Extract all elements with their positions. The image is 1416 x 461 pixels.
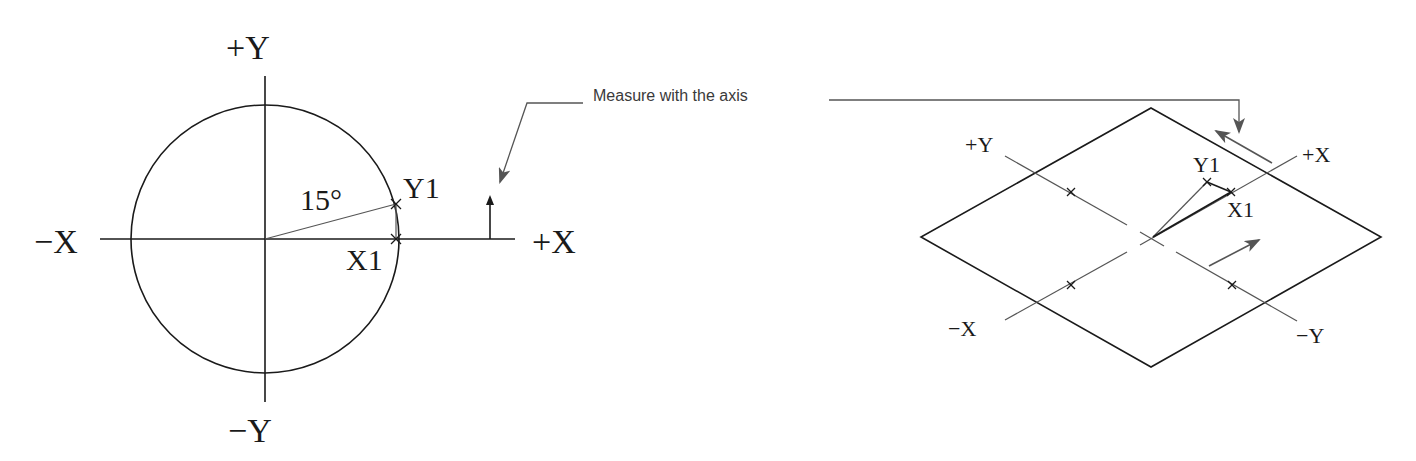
iso-label-x1: X1	[1227, 197, 1254, 222]
circle-diagram: +Y −Y −X +X 15° Y1 X1	[34, 29, 576, 449]
diagram-canvas: +Y −Y −X +X 15° Y1 X1 Measure with the a…	[0, 0, 1416, 461]
isometric-diagram: +Y +X −X −Y Y1 X1	[921, 108, 1381, 367]
label-angle: 15°	[300, 183, 342, 216]
label-y1: Y1	[403, 171, 440, 204]
iso-y1-x1-link	[1207, 182, 1231, 192]
iso-x-axis-lower	[1005, 252, 1127, 320]
iso-arrow-upright-icon	[1209, 240, 1259, 266]
iso-label-pos-y: +Y	[965, 132, 993, 157]
iso-label-y1: Y1	[1193, 152, 1220, 177]
iso-arrow-upleft-icon	[1216, 131, 1272, 163]
label-x1: X1	[346, 243, 383, 276]
iso-label-pos-x: +X	[1302, 142, 1330, 167]
iso-label-neg-y: −Y	[1296, 323, 1324, 348]
iso-label-neg-x: −X	[948, 316, 976, 341]
callout-leader-left	[500, 103, 583, 182]
callout-text: Measure with the axis	[593, 87, 748, 104]
label-pos-y: +Y	[226, 29, 270, 66]
iso-y-axis-upper	[1005, 156, 1127, 225]
label-pos-x: +X	[532, 223, 576, 260]
iso-x1-segment	[1153, 192, 1231, 237]
callout-leader-right	[829, 100, 1239, 132]
iso-y-axis-lower	[1176, 252, 1297, 321]
label-neg-x: −X	[34, 223, 78, 260]
label-neg-y: −Y	[228, 412, 272, 449]
callout: Measure with the axis	[500, 87, 1239, 182]
